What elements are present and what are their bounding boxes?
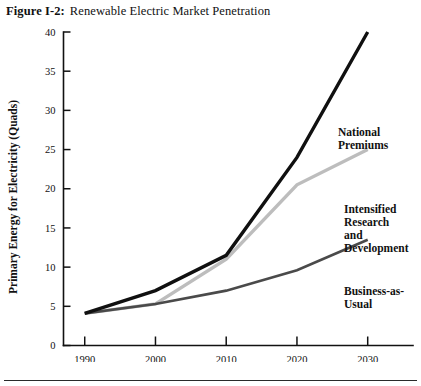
annotation-national-premiums: National Premiums	[338, 126, 388, 152]
y-tick-label: 0	[50, 340, 55, 351]
y-tick-label: 10	[45, 262, 56, 273]
y-tick-label: 5	[50, 301, 55, 312]
y-tick-label: 20	[45, 183, 56, 194]
y-axis-ticks: 0510152025303540	[45, 27, 71, 352]
y-tick-label: 35	[45, 66, 56, 77]
series-line-business-as-usual	[85, 240, 368, 314]
x-tick-label: 2000	[145, 354, 166, 363]
figure-number: Figure I-2:	[6, 4, 65, 18]
series-line-intensified-research-and-development	[85, 150, 368, 314]
y-axis-title: Primary Energy for Electricity (Quads)	[7, 100, 20, 294]
x-axis-ticks: 19902000201020202030	[74, 337, 378, 363]
line-chart: 0510152025303540 19902000201020202030 Pr…	[0, 22, 421, 362]
y-tick-label: 30	[45, 105, 56, 116]
annotation-intensified-research-development: Intensified Research and Development	[344, 203, 409, 255]
x-tick-label: 2020	[286, 354, 307, 363]
annotation-business-as-usual: Business-as- Usual	[344, 285, 404, 311]
x-tick-label: 2010	[216, 354, 237, 363]
bottom-divider	[4, 380, 417, 381]
y-tick-label: 40	[45, 27, 56, 38]
y-tick-label: 25	[45, 144, 56, 155]
x-tick-label: 2030	[357, 354, 378, 363]
series-line-national-premiums	[85, 32, 368, 313]
series-lines	[85, 32, 368, 313]
y-tick-label: 15	[45, 223, 56, 234]
figure-title: Renewable Electric Market Penetration	[70, 4, 271, 18]
chart-area: 0510152025303540 19902000201020202030 Pr…	[0, 22, 421, 362]
figure-root: Figure I-2:Renewable Electric Market Pen…	[0, 0, 421, 386]
x-tick-label: 1990	[74, 354, 95, 363]
figure-caption: Figure I-2:Renewable Electric Market Pen…	[6, 4, 270, 19]
